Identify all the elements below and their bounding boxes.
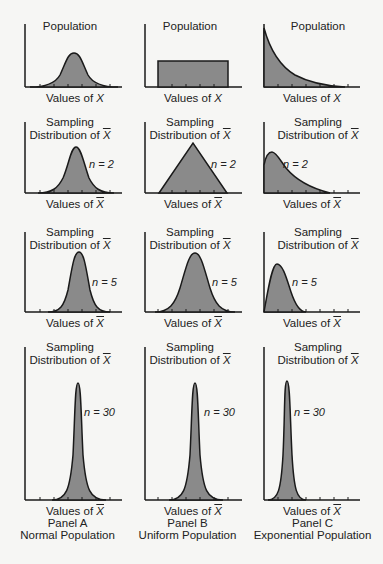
panel-a-n30: SamplingDistribution of X n = 30 Values … [0, 335, 125, 564]
panel-b-population: Population Values of X [125, 0, 250, 110]
x-label-var: X [333, 92, 341, 104]
x-label-var: X [96, 505, 104, 517]
x-label-var: X [333, 505, 341, 517]
x-label-text: Values of [46, 92, 96, 104]
panel-b-n30: SamplingDistribution of X n = 30 Values … [125, 335, 250, 564]
panel-c-n2: SamplingDistribution of X n = 2 Values o… [250, 110, 383, 220]
x-label-var: X [333, 317, 341, 329]
x-axis-label: Values of X [143, 92, 243, 105]
x-label-var: X [96, 92, 104, 104]
sample-size-label: n = 30 [204, 406, 235, 418]
panel-b-n2: SamplingDistribution of X n = 2 Values o… [125, 110, 250, 220]
x-axis-label: Values of X [25, 92, 125, 105]
x-label-text: Values of [283, 92, 333, 104]
x-axis-label: Values of X [262, 92, 362, 105]
sample-size-label: n = 30 [294, 406, 325, 418]
x-axis-label: Values of X [25, 317, 125, 330]
x-axis-label: Values of X [143, 198, 243, 211]
x-axis-label: Values of X [262, 317, 362, 330]
sample-size-label: n = 5 [212, 276, 237, 288]
x-label-text: Values of [46, 505, 96, 517]
sample-size-label: n = 2 [89, 158, 114, 170]
panel-a-n5: SamplingDistribution of X n = 5 Values o… [0, 220, 125, 335]
population-type-label: Normal Population [10, 529, 125, 542]
x-label-text: Values of [164, 92, 214, 104]
panel-c-population: Population Values of X [250, 0, 383, 110]
x-label-text: Values of [46, 317, 96, 329]
panel-c-n30: SamplingDistribution of X n = 30 Values … [250, 335, 383, 564]
x-label-text: Values of [164, 317, 214, 329]
x-axis-label: Values of X [262, 198, 362, 211]
x-label-text: Values of [164, 198, 214, 210]
x-label-var: X [96, 317, 104, 329]
x-label-var: X [214, 92, 222, 104]
sample-size-label: n = 2 [211, 158, 236, 170]
x-axis-label: Values of X [143, 317, 243, 330]
sample-size-label: n = 2 [283, 158, 308, 170]
x-label-text: Values of [283, 198, 333, 210]
x-label-var: X [333, 198, 341, 210]
x-label-var: X [96, 198, 104, 210]
x-label-text: Values of [46, 198, 96, 210]
panel-c-n5: SamplingDistribution of X n = 5 Values o… [250, 220, 383, 335]
x-label-var: X [214, 505, 222, 517]
x-label-var: X [214, 317, 222, 329]
population-type-label: Exponential Population [250, 529, 375, 542]
population-type-label: Uniform Population [130, 529, 245, 542]
sample-size-label: n = 5 [92, 276, 117, 288]
x-label-text: Values of [164, 505, 214, 517]
panel-a-population: Population Values of X [0, 0, 125, 110]
x-label-text: Values of [283, 317, 333, 329]
panel-b-n5: SamplingDistribution of X n = 5 Values o… [125, 220, 250, 335]
sample-size-label: n = 5 [292, 276, 317, 288]
x-label-var: X [214, 198, 222, 210]
panel-a-n2: SamplingDistribution of X n = 2 Values o… [0, 110, 125, 220]
x-axis-label: Values of X [25, 198, 125, 211]
sample-size-label: n = 30 [84, 406, 115, 418]
x-label-text: Values of [283, 505, 333, 517]
